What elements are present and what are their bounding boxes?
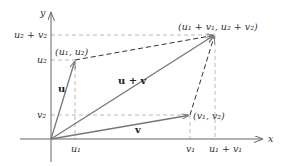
label-v: v	[134, 124, 142, 135]
x-tick-u1: u₁	[71, 143, 81, 154]
translated-v	[75, 36, 213, 61]
point-sum: (u₁ + v₁, u₂ + v₂)	[178, 21, 258, 32]
vector-u	[51, 62, 75, 139]
x-axis-label: x	[268, 133, 274, 144]
x-tick-u1v1: u₁ + v₁	[209, 143, 242, 154]
y-tick-u2: u₂	[37, 54, 47, 65]
y-tick-v2: v₂	[37, 109, 46, 120]
y-axis-label: y	[39, 7, 46, 18]
label-u: u	[58, 83, 65, 94]
vector-addition-diagram: u v u + v (u₁, u₂) (v₁, v₂) (u₁ + v₁, u₂…	[0, 0, 282, 166]
label-u-plus-v: u + v	[118, 75, 148, 86]
x-tick-v1: v₁	[186, 143, 195, 154]
point-u: (u₁, u₂)	[55, 46, 89, 57]
y-tick-u2v2: u₂ + v₂	[14, 29, 47, 40]
vector-v	[51, 116, 188, 140]
point-v: (v₁, v₂)	[193, 110, 225, 121]
